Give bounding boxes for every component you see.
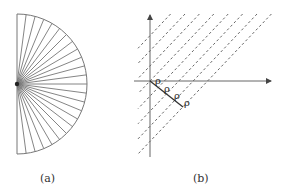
fan-center-point: [15, 82, 19, 86]
figure-canvas: ρρρρ: [0, 0, 281, 195]
fan-spoke: [17, 66, 85, 84]
rho-labels: ρρρρ: [155, 75, 190, 108]
rho-label: ρ: [174, 90, 180, 101]
fan-spoke: [17, 16, 35, 84]
dashed-line: [138, 14, 214, 94]
fan-spoke: [17, 84, 85, 102]
fan-spoke: [17, 84, 35, 152]
dashed-line: [138, 14, 243, 124]
caption-b: (b): [193, 172, 209, 185]
panel-a-semicircle-fan: [15, 14, 87, 154]
dashed-line: [138, 14, 185, 63]
rho-label: ρ: [164, 83, 170, 94]
panel-b-axes-diagram: ρρρρ: [134, 14, 271, 157]
caption-a: (a): [40, 172, 55, 185]
dashed-line: [138, 14, 171, 48]
dashed-line: [138, 14, 228, 109]
rho-label: ρ: [155, 75, 161, 86]
rho-label: ρ: [184, 97, 190, 108]
